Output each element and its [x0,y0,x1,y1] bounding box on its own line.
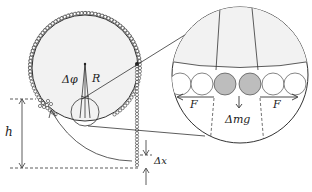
delta-x-dimension [140,140,152,185]
chain-on-cylinder-diagram: Δφ R h Δx F F Δmg [0,0,312,192]
height-label: h [5,125,13,139]
force-left-label: F [189,98,198,111]
delta-phi-label: Δφ [61,73,78,86]
delta-mg-label: Δmg [224,113,250,126]
delta-x-label: Δx [153,155,167,166]
force-right-label: F [272,98,281,111]
hanging-chain [135,64,138,166]
radius-label: R [91,72,100,85]
